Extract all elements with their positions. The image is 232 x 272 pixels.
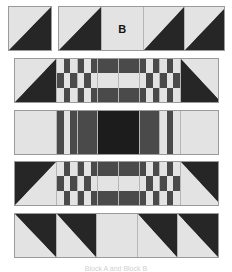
solid-medium-unit (139, 111, 160, 154)
block-b-label: B (102, 7, 143, 50)
hst-unit (56, 214, 97, 257)
hst-unit (15, 214, 56, 257)
nine-patch-unit (139, 59, 160, 102)
plain-square-unit (96, 214, 137, 257)
hst-unit (59, 7, 101, 50)
strip-row-1-left (8, 6, 52, 51)
nine-patch-unit (139, 162, 160, 205)
solid-medium-unit (77, 111, 98, 154)
nine-patch-unit (56, 59, 77, 102)
hst-unit (180, 162, 219, 205)
hst-unit (177, 214, 218, 257)
solid-darkest-unit (97, 111, 138, 154)
nine-patch-unit (77, 59, 98, 102)
nine-patch-unit (159, 162, 180, 205)
hst-unit (184, 7, 225, 50)
strip-row-3 (14, 110, 219, 155)
nine-patch-unit (159, 59, 180, 102)
three-bar-unit (118, 59, 139, 102)
hst-unit (143, 7, 185, 50)
quilt-block-diagram: B (0, 0, 232, 272)
strip-row-2 (14, 58, 219, 103)
three-bar-unit (97, 59, 118, 102)
hst-unit (180, 59, 219, 102)
strip-row-1-right: B (58, 6, 225, 51)
strip-row-5 (14, 213, 219, 258)
vertical-stripe-unit (56, 111, 77, 154)
solid-light-unit (15, 111, 56, 154)
solid-light-unit (180, 111, 219, 154)
figure-caption: Block A and Block B (0, 265, 232, 272)
plain-square-b: B (101, 7, 143, 50)
hst-unit (15, 59, 56, 102)
nine-patch-unit (77, 162, 98, 205)
nine-patch-unit (56, 162, 77, 205)
hst-unit (137, 214, 178, 257)
hst-unit (15, 162, 56, 205)
three-bar-unit (97, 162, 118, 205)
three-bar-unit (118, 162, 139, 205)
vertical-stripe-unit (159, 111, 180, 154)
hst-unit (9, 7, 51, 50)
strip-row-4 (14, 161, 219, 206)
